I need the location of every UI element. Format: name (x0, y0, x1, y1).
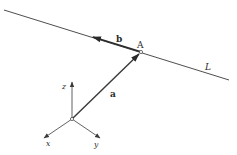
label-A: A (136, 40, 144, 50)
label-z: z (61, 82, 66, 91)
x-axis (44, 119, 72, 138)
y-axis (72, 119, 100, 138)
label-x: x (46, 139, 51, 148)
origin-point (70, 117, 73, 120)
label-y: y (93, 140, 99, 149)
vector-a-arrow (73, 54, 139, 118)
label-a: a (110, 89, 116, 99)
vector-line-diagram: A b L a z x y (0, 0, 237, 155)
point-A (139, 50, 142, 53)
label-L: L (204, 62, 211, 72)
label-b: b (116, 34, 122, 44)
